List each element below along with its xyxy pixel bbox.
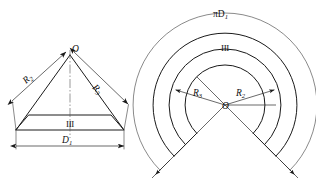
elevation-region-label: III bbox=[66, 119, 74, 129]
development-arc-length-subscript: 1 bbox=[225, 13, 228, 20]
development-view: πD1 III R3 O R2 bbox=[133, 9, 316, 178]
elevation-apex-label: O bbox=[72, 44, 79, 54]
development-r2-subscript: 2 bbox=[242, 92, 246, 99]
elevation-d1-label-group: D1 bbox=[61, 135, 72, 146]
elevation-view: O R2 R3 III D1 bbox=[12, 44, 129, 149]
left-leader-arrow bbox=[156, 160, 171, 175]
reference-arc-piD1 bbox=[133, 13, 316, 170]
r2-dimension-line bbox=[12, 52, 66, 101]
r3-dimension-line bbox=[74, 52, 128, 104]
development-r3-label-group: R3 bbox=[192, 88, 203, 99]
cone-left-slant bbox=[16, 55, 70, 130]
elevation-d1-label: D bbox=[61, 135, 69, 145]
elevation-d1-subscript: 1 bbox=[69, 139, 72, 146]
r2-witness-lower bbox=[13, 102, 17, 130]
development-region-label: III bbox=[221, 43, 229, 53]
drawing-canvas: O R2 R3 III D1 bbox=[0, 0, 316, 186]
elevation-r2-label-group: R2 bbox=[20, 71, 36, 87]
development-r3-subscript: 3 bbox=[198, 92, 203, 99]
svg-text:R2: R2 bbox=[20, 71, 36, 87]
development-arc-length-label-group: πD1 bbox=[213, 9, 228, 20]
development-r2-label-group: R2 bbox=[235, 88, 246, 99]
development-arc-length-label: πD bbox=[213, 9, 225, 19]
right-arc-pointer bbox=[225, 90, 274, 105]
r3-witness-lower bbox=[124, 105, 129, 131]
right-leader-arrow bbox=[280, 160, 295, 175]
development-center-label: O bbox=[222, 101, 229, 111]
technical-drawing-figure: O R2 R3 III D1 bbox=[0, 0, 316, 186]
inner-arc-r3 bbox=[185, 65, 265, 133]
